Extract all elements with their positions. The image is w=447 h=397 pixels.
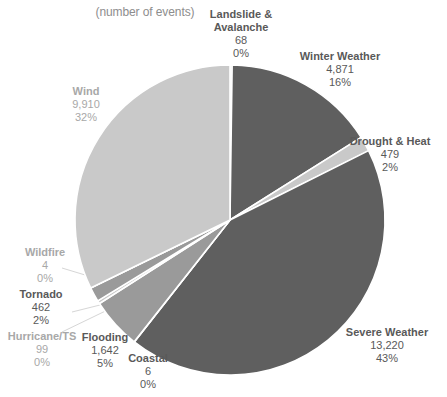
slice-label-percent: 0% — [3, 356, 81, 369]
slice-label-percent: 2% — [333, 161, 447, 174]
slice-label-value: 68 — [185, 34, 297, 47]
slice-label-wind: Wind 9,910 32% — [55, 85, 117, 124]
slice-label-value: 4,871 — [280, 63, 400, 76]
slice-label-name-line1: Tornado — [6, 288, 76, 301]
slice-label-wildfire: Wildfire 4 0% — [14, 246, 76, 285]
slice-label-value: 4 — [14, 259, 76, 272]
slice-label-value: 9,910 — [55, 98, 117, 111]
slice-label-tornado: Tornado 462 2% — [6, 288, 76, 327]
pie-chart-figure: Distribution of Hazard Events (number of… — [0, 0, 447, 397]
slice-label-value: 479 — [333, 148, 447, 161]
slice-label-name-line1: Hurricane/TS — [3, 330, 81, 343]
slice-label-name-line1: Winter Weather — [280, 50, 400, 63]
slice-label-percent: 32% — [55, 111, 117, 124]
slice-label-value: 99 — [3, 343, 81, 356]
slice-label-percent: 5% — [74, 357, 136, 370]
slice-label-name-line1: Flooding — [74, 331, 136, 344]
slice-label-severe-weather: Severe Weather 13,220 43% — [328, 326, 446, 365]
slice-label-name-line2: Avalanche — [185, 21, 297, 34]
slice-label-hurricane-ts: Hurricane/TS 99 0% — [3, 330, 81, 369]
slice-label-percent: 0% — [112, 378, 184, 391]
slice-label-percent: 2% — [6, 314, 76, 327]
slice-label-value: 462 — [6, 301, 76, 314]
slice-label-name-line1: Wildfire — [14, 246, 76, 259]
slice-label-name-line1: Severe Weather — [328, 326, 446, 339]
slice-label-percent: 16% — [280, 76, 400, 89]
slice-label-value: 13,220 — [328, 339, 446, 352]
slice-label-percent: 0% — [14, 272, 76, 285]
slice-label-winter-weather: Winter Weather 4,871 16% — [280, 50, 400, 89]
slice-label-value: 1,642 — [74, 344, 136, 357]
slice-label-name-line1: Drought & Heat — [333, 135, 447, 148]
slice-label-name-line1: Wind — [55, 85, 117, 98]
slice-label-flooding: Flooding 1,642 5% — [74, 331, 136, 370]
slice-label-name-line1: Landslide & — [185, 8, 297, 21]
slice-label-percent: 43% — [328, 352, 446, 365]
slice-label-drought-heat: Drought & Heat 479 2% — [333, 135, 447, 174]
